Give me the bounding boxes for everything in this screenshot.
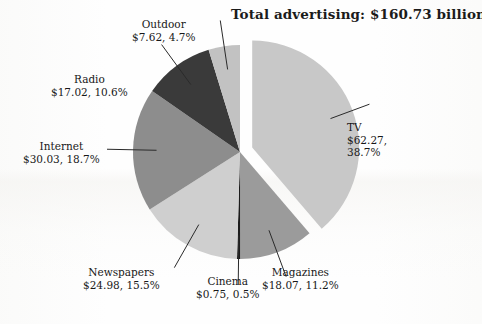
slice-label-radio: Radio $17.02, 10.6% (51, 73, 128, 98)
slice-label-internet: Internet $30.03, 18.7% (23, 140, 100, 165)
pie-slices (133, 41, 359, 260)
slice-label-tv-value: $62.27, (347, 134, 387, 147)
slice-label-radio-name: Radio (51, 73, 128, 86)
slice-label-tv-percent: 38.7% (347, 146, 387, 159)
slice-label-internet-value: $30.03, 18.7% (23, 153, 100, 166)
slice-label-cinema-value: $0.75, 0.5% (196, 288, 259, 301)
slice-label-radio-value: $17.02, 10.6% (51, 86, 128, 99)
slice-label-tv: TV $62.27, 38.7% (347, 121, 387, 159)
slice-label-newspapers-name: Newspapers (83, 266, 160, 279)
pie-chart-figure: Total advertising: $160.73 billion TV $6… (0, 0, 482, 324)
slice-label-outdoor-name: Outdoor (132, 18, 195, 31)
slice-label-cinema: Cinema $0.75, 0.5% (196, 275, 259, 300)
slice-label-newspapers-value: $24.98, 15.5% (83, 279, 160, 292)
slice-label-outdoor: Outdoor $7.62, 4.7% (132, 18, 195, 43)
slice-label-cinema-name: Cinema (196, 275, 259, 288)
slice-label-newspapers: Newspapers $24.98, 15.5% (83, 266, 160, 291)
slice-label-magazines-value: $18.07, 11.2% (262, 279, 339, 292)
slice-label-magazines-name: Magazines (262, 266, 339, 279)
slice-label-tv-name: TV (347, 121, 387, 134)
slice-label-outdoor-value: $7.62, 4.7% (132, 31, 195, 44)
slice-label-magazines: Magazines $18.07, 11.2% (262, 266, 339, 291)
slice-label-internet-name: Internet (23, 140, 100, 153)
